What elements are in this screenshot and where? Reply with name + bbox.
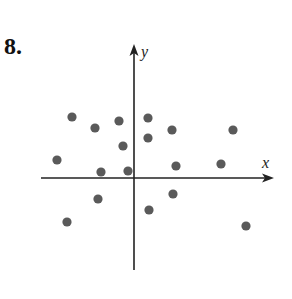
data-point — [144, 205, 153, 214]
data-point — [62, 217, 71, 226]
data-point — [118, 141, 127, 150]
scatter-plot: x y — [0, 0, 292, 299]
y-axis-label: y — [139, 43, 149, 61]
data-point — [123, 166, 132, 175]
data-point — [171, 161, 180, 170]
axes: x y — [41, 43, 274, 270]
data-point — [96, 167, 105, 176]
data-point — [143, 133, 152, 142]
data-point — [228, 125, 237, 134]
data-point — [168, 189, 177, 198]
data-point — [241, 221, 250, 230]
data-point — [216, 159, 225, 168]
data-point — [114, 116, 123, 125]
x-axis-label: x — [261, 154, 269, 171]
data-points — [52, 112, 250, 230]
data-point — [93, 194, 102, 203]
data-point — [167, 125, 176, 134]
data-point — [90, 123, 99, 132]
data-point — [52, 155, 61, 164]
data-point — [143, 113, 152, 122]
data-point — [67, 112, 76, 121]
